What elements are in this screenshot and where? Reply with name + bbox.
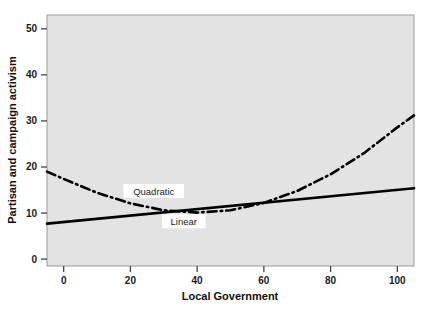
y-tick-label: 0 xyxy=(31,254,37,265)
y-tick-label: 20 xyxy=(26,161,38,172)
x-tick-label: 100 xyxy=(389,275,406,286)
x-tick-label: 40 xyxy=(192,275,204,286)
y-tick-label: 40 xyxy=(26,69,38,80)
x-tick-label: 20 xyxy=(125,275,137,286)
y-axis-title: Partisan and campaign activism xyxy=(6,56,18,224)
y-tick-label: 10 xyxy=(26,208,38,219)
x-tick-label: 60 xyxy=(258,275,270,286)
x-tick-label: 80 xyxy=(325,275,337,286)
x-tick-label: 0 xyxy=(61,275,67,286)
y-axis-ticks: 01020304050 xyxy=(26,23,47,264)
y-tick-label: 30 xyxy=(26,115,38,126)
x-axis-title: Local Government xyxy=(182,290,279,302)
annotation-label-linear: Linear xyxy=(171,216,197,227)
y-tick-label: 50 xyxy=(26,23,38,34)
x-axis-ticks: 020406080100 xyxy=(61,266,406,286)
chart-figure: 01020304050 020406080100 QuadraticLinear… xyxy=(0,0,428,309)
chart-svg: 01020304050 020406080100 QuadraticLinear… xyxy=(0,0,428,309)
annotation-label-quadratic: Quadratic xyxy=(133,186,174,197)
plot-area-background xyxy=(47,15,414,266)
